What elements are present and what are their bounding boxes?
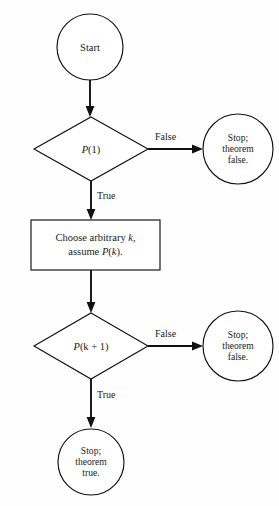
node-stop-true-line3: true.	[82, 467, 99, 478]
node-stop-false-1-line2: theorem	[222, 143, 254, 154]
edge-label-step-false: False	[155, 328, 177, 339]
edge-label-step-true: True	[97, 389, 116, 400]
node-start-label: Start	[80, 42, 100, 53]
decision-base-label-arg: (1)	[88, 144, 101, 156]
arrowhead-start-to-base	[86, 106, 95, 117]
node-stop-false-2-line3: false.	[228, 351, 249, 362]
process-line1-tail: ,	[133, 232, 136, 243]
process-line2-plain: assume	[68, 246, 102, 257]
arrowhead-step-false	[192, 342, 203, 351]
process-line1-plain: Choose arbitrary	[55, 232, 128, 243]
edge-label-base-true: True	[97, 190, 116, 201]
node-stop-false-2-line1: Stop;	[228, 329, 248, 340]
flowchart-figure: Start P(1) False Stop; theorem false. Tr…	[0, 0, 279, 506]
flowchart-canvas: Start P(1) False Stop; theorem false. Tr…	[0, 0, 279, 506]
node-process-line1: Choose arbitrary k,	[55, 232, 135, 243]
node-decision-base-label: P(1)	[81, 144, 101, 156]
node-decision-step-label: P(k + 1)	[72, 341, 109, 353]
node-process-line2: assume P(k).	[68, 246, 122, 258]
arrowhead-base-false	[192, 145, 203, 154]
node-stop-false-1-line3: false.	[228, 154, 249, 165]
process-line2-tail: ).	[117, 246, 123, 258]
arrowhead-step-true	[87, 417, 96, 428]
node-stop-true-line2: theorem	[75, 456, 107, 467]
node-process	[31, 220, 160, 270]
node-stop-false-2-line2: theorem	[222, 340, 254, 351]
node-stop-true-line1: Stop;	[81, 445, 101, 456]
arrowhead-base-true	[87, 209, 96, 220]
node-stop-false-1-line1: Stop;	[228, 132, 248, 143]
decision-step-label-arg: (k + 1)	[80, 341, 109, 353]
edge-label-base-false: False	[155, 131, 177, 142]
arrowhead-process-to-step	[87, 302, 96, 313]
